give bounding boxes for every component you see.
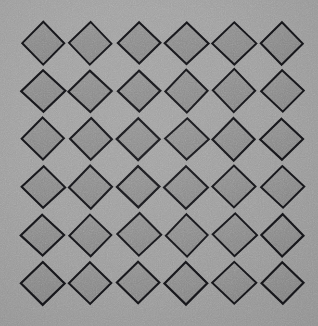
diamond-grid — [0, 0, 318, 326]
diamond-pattern-image — [0, 0, 318, 326]
